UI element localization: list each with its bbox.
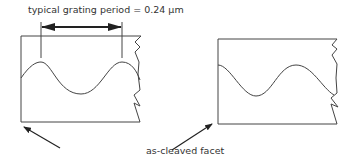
right-waveguide-block — [218, 39, 338, 124]
left-facet-arrow — [24, 127, 60, 148]
left-waveguide-block — [21, 22, 141, 122]
diagram-canvas — [0, 0, 353, 164]
right-facet-arrow — [172, 124, 212, 150]
